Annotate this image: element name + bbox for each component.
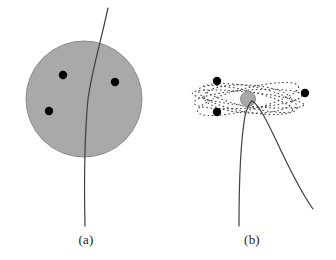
- nucleus: [241, 92, 256, 107]
- panel-b-caption: (b): [244, 232, 260, 247]
- electron-dot: [213, 77, 221, 85]
- panel-a-caption: (a): [78, 232, 93, 247]
- embedded-charge-dot: [45, 107, 53, 115]
- embedded-charge-dot: [111, 78, 119, 86]
- electron-dot: [213, 108, 221, 116]
- figure-canvas: (a) (b): [0, 0, 336, 260]
- embedded-charge-dot: [59, 71, 67, 79]
- scattering-figure: (a) (b): [0, 0, 336, 260]
- electron-dot: [301, 89, 309, 97]
- uniform-charge-sphere: [26, 41, 142, 157]
